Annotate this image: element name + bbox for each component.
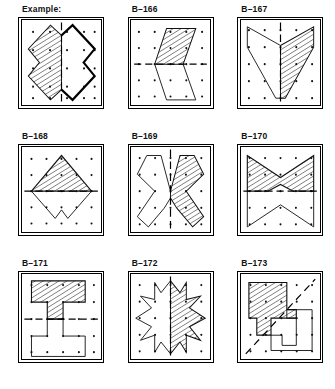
panel-label-b-166: B–166 — [132, 4, 158, 14]
panel-cell-b-172: B–172 — [114, 258, 224, 385]
panel-cell-b-170: B–170 — [223, 131, 333, 258]
figure-canvas-b-172 — [130, 273, 211, 360]
panel-cell-b-171: B–171 — [4, 258, 114, 385]
figure-panel-b-173[interactable] — [237, 271, 323, 363]
figure-canvas-b-166 — [130, 19, 211, 106]
figure-svg-example — [22, 20, 101, 105]
mirrored-half-b-169 — [137, 156, 170, 227]
shaded-half-b-169 — [171, 156, 204, 227]
panel-label-b-172: B–172 — [132, 258, 158, 268]
figure-canvas-b-171 — [21, 273, 102, 360]
mirrored-half-example — [61, 25, 94, 100]
panel-label-b-171: B–171 — [22, 258, 48, 268]
figure-svg-b-169 — [131, 147, 210, 232]
figure-panel-b-171[interactable] — [18, 271, 104, 363]
shaded-half-b-172 — [171, 281, 206, 354]
figure-canvas-b-173 — [240, 273, 321, 360]
figure-canvas-b-167 — [240, 19, 321, 106]
figure-svg-b-173 — [241, 274, 320, 359]
shaded-half-b-168 — [31, 156, 91, 192]
figure-canvas-b-170 — [240, 146, 321, 233]
panel-grid: Example: — [0, 0, 335, 389]
panel-cell-example: Example: — [4, 4, 114, 131]
panel-cell-b-169: B–169 — [114, 131, 224, 258]
figure-panel-example[interactable] — [18, 17, 104, 109]
panel-label-b-167: B–167 — [241, 4, 267, 14]
panel-label-b-173: B–173 — [241, 258, 267, 268]
figure-panel-b-168[interactable] — [18, 144, 104, 236]
panel-cell-b-173: B–173 — [223, 258, 333, 385]
figure-canvas-example — [21, 19, 102, 106]
figure-svg-b-166 — [131, 20, 210, 105]
figure-panel-b-170[interactable] — [237, 144, 323, 236]
mirrored-half-b-167 — [247, 27, 280, 98]
figure-svg-b-171 — [22, 274, 101, 359]
mirrored-half-b-171 — [31, 319, 85, 356]
figure-panel-b-169[interactable] — [128, 144, 214, 236]
figure-canvas-b-169 — [130, 146, 211, 233]
mirrored-half-b-168 — [31, 191, 91, 218]
figure-svg-b-167 — [241, 20, 320, 105]
panel-cell-b-166: B–166 — [114, 4, 224, 131]
figure-svg-b-170 — [241, 147, 320, 232]
panel-label-b-168: B–168 — [22, 131, 48, 141]
figure-canvas-b-168 — [21, 146, 102, 233]
panel-cell-b-167: B–167 — [223, 4, 333, 131]
shaded-half-example — [28, 25, 61, 100]
mirrored-half-b-170 — [247, 191, 313, 227]
figure-svg-b-168 — [22, 147, 101, 232]
figure-panel-b-167[interactable] — [237, 17, 323, 109]
panel-label-example: Example: — [22, 4, 61, 14]
figure-panel-b-172[interactable] — [128, 271, 214, 363]
panel-label-b-169: B–169 — [132, 131, 158, 141]
shaded-half-b-166 — [155, 29, 196, 65]
mirrored-half-b-166 — [155, 64, 196, 100]
mirrored-half-b-172 — [136, 281, 171, 354]
figure-svg-b-172 — [131, 274, 210, 359]
figure-panel-b-166[interactable] — [128, 17, 214, 109]
shaded-half-b-170 — [247, 156, 313, 192]
panel-label-b-170: B–170 — [241, 131, 267, 141]
worksheet-sheet: Example: — [0, 0, 335, 389]
panel-cell-b-168: B–168 — [4, 131, 114, 258]
shaded-half-b-173 — [249, 283, 296, 336]
shaded-half-b-167 — [280, 27, 313, 98]
shaded-half-b-171 — [31, 281, 85, 319]
